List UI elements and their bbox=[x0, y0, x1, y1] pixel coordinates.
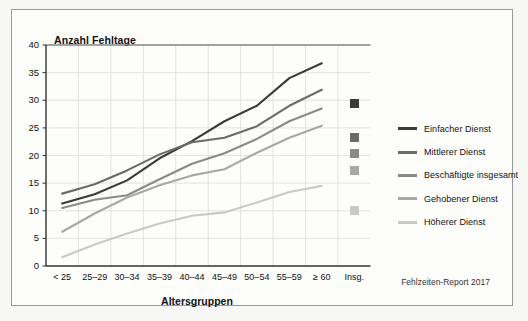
y-tick-label: 30 bbox=[13, 94, 39, 105]
y-tick-label: 35 bbox=[13, 67, 39, 78]
legend-swatch-icon bbox=[398, 151, 417, 154]
insg-marker bbox=[350, 166, 359, 175]
legend-swatch-icon bbox=[398, 221, 417, 224]
chart-legend: Einfacher DienstMittlerer DienstBeschäft… bbox=[398, 117, 518, 234]
y-tick-label: 0 bbox=[13, 260, 39, 271]
chart-page: Anzahl Fehltage 0510152025303540 < 2525–… bbox=[0, 0, 528, 321]
y-tick-label: 25 bbox=[13, 122, 39, 133]
y-tick-label: 5 bbox=[13, 232, 39, 243]
legend-item[interactable]: Mittlerer Dienst bbox=[398, 140, 518, 163]
footer-note: Fehlzeiten-Report 2017 bbox=[401, 277, 490, 287]
y-tick-label: 20 bbox=[13, 150, 39, 161]
insg-marker bbox=[350, 133, 359, 142]
legend-label: Beschäftigte insgesamt bbox=[424, 170, 518, 180]
legend-item[interactable]: Einfacher Dienst bbox=[398, 117, 518, 140]
legend-item[interactable]: Höherer Dienst bbox=[398, 211, 518, 234]
legend-label: Mittlerer Dienst bbox=[424, 147, 485, 157]
legend-item[interactable]: Beschäftigte insgesamt bbox=[398, 164, 518, 187]
chart-frame: Anzahl Fehltage 0510152025303540 < 2525–… bbox=[11, 9, 513, 306]
legend-swatch-icon bbox=[398, 197, 417, 200]
legend-item[interactable]: Gehobener Dienst bbox=[398, 187, 518, 210]
legend-swatch-icon bbox=[398, 174, 417, 177]
y-tick-label: 10 bbox=[13, 205, 39, 216]
y-tick-label: 40 bbox=[13, 39, 39, 50]
x-axis-label: Altersgruppen bbox=[57, 295, 337, 307]
legend-label: Einfacher Dienst bbox=[424, 124, 491, 134]
y-tick-label: 15 bbox=[13, 177, 39, 188]
insg-marker bbox=[350, 206, 359, 215]
legend-label: Höherer Dienst bbox=[424, 217, 485, 227]
insg-marker bbox=[350, 99, 359, 108]
legend-swatch-icon bbox=[398, 127, 417, 130]
legend-label: Gehobener Dienst bbox=[424, 194, 498, 204]
x-tick-label-insg: Insg. bbox=[331, 272, 377, 282]
insg-marker bbox=[350, 149, 359, 158]
